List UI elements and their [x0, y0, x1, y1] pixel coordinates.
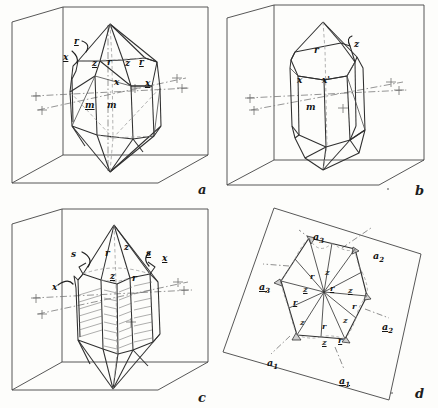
axis-label-a3: a3: [313, 232, 324, 244]
face-label-x: x: [162, 254, 167, 263]
ink-speck: [387, 188, 389, 190]
face-label-r: r: [105, 249, 110, 258]
panel-letter-a: a: [198, 182, 206, 197]
face-label-r: r: [338, 336, 342, 344]
face-label-s: s: [146, 249, 151, 258]
face-label-z: z: [303, 285, 308, 293]
face-label-z: z: [348, 286, 353, 294]
face-label-z: z: [300, 318, 305, 326]
face-label-z: z: [354, 40, 359, 49]
face-label-z: z: [125, 59, 130, 68]
panel-d-drawing: [219, 204, 438, 408]
axis-label-a1: a1: [267, 358, 278, 370]
face-label-z: z: [322, 338, 327, 346]
face-label-z: z: [110, 272, 115, 281]
face-label-r: r: [139, 58, 144, 67]
face-label-s: s: [71, 250, 76, 259]
face-label-z: z: [124, 243, 129, 252]
panel-b-drawing: [219, 0, 438, 204]
axis-label-a3: a3: [259, 282, 270, 294]
face-label-x: x: [297, 76, 302, 85]
axis-label-a2: a2: [373, 251, 384, 263]
face-label-m: m: [85, 101, 95, 110]
face-label-m: m: [107, 101, 117, 110]
panel-letter-b: b: [415, 183, 424, 198]
panel-c: c: [0, 204, 219, 408]
face-label-r: r: [132, 274, 137, 283]
face-label-x: x: [114, 78, 119, 87]
face-label-r: r: [322, 322, 326, 330]
face-label-r: r: [310, 272, 314, 280]
face-label-z: z: [343, 316, 348, 324]
face-label-x: x: [145, 79, 150, 88]
ink-speck: [391, 392, 393, 394]
panel-b: b: [219, 0, 438, 204]
panel-letter-c: c: [198, 390, 206, 405]
face-label-xprime: x': [322, 76, 330, 85]
face-label-x: x: [63, 53, 68, 62]
face-label-z: z: [92, 59, 97, 68]
face-label-r: r: [293, 298, 297, 306]
face-label-r: r: [74, 37, 79, 46]
axis-label-a2: a2: [382, 322, 393, 334]
face-label-r: r: [314, 46, 319, 55]
panel-d: d: [219, 204, 438, 408]
axis-label-a1: a1: [339, 376, 350, 388]
face-label-r: r: [352, 302, 356, 310]
panel-c-drawing: [0, 204, 219, 408]
face-label-z: z: [325, 268, 330, 276]
face-label-m: m: [306, 103, 316, 112]
face-label-x: x: [52, 283, 57, 292]
crystal-forms-figure: a: [0, 0, 438, 408]
panel-letter-d: d: [415, 386, 424, 401]
face-label-r: r: [107, 58, 112, 67]
face-label-r: r: [330, 284, 334, 292]
